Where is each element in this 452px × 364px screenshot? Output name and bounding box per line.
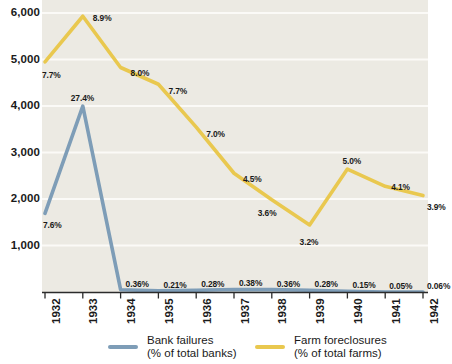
- data-point-label-bank-1941: 0.05%: [389, 282, 412, 290]
- chart-container: 6,000 5,000 4,000 3,000 2,000 1,000 1932…: [0, 0, 452, 364]
- data-point-label-farm-1933: 8.9%: [93, 14, 112, 22]
- data-point-label-bank-1939: 0.28%: [315, 280, 338, 288]
- legend-label-line2: (% of total banks): [147, 347, 236, 360]
- data-point-label-bank-1933: 27.4%: [71, 94, 94, 102]
- x-tick-label-1933: 1933: [88, 298, 100, 324]
- x-tick-label-1932: 1932: [51, 298, 63, 324]
- legend-label-line2: (% of total farms): [294, 347, 387, 360]
- data-point-label-farm-1940: 5.0%: [342, 157, 361, 165]
- data-point-label-bank-1934: 0.36%: [126, 280, 149, 288]
- data-point-label-bank-1937: 0.38%: [239, 279, 262, 287]
- legend-label-bank-failures: Bank failures (% of total banks): [147, 334, 236, 360]
- x-tick-label-1939: 1939: [315, 298, 327, 324]
- legend-label-line1: Bank failures: [147, 334, 236, 347]
- x-axis-labels: 1932193319341935193619371938193919401941…: [0, 0, 452, 364]
- legend-swatch-bank-failures: [108, 345, 138, 349]
- x-tick-label-1937: 1937: [240, 298, 252, 324]
- data-point-label-farm-1941: 4.1%: [391, 183, 410, 191]
- x-tick-label-1936: 1936: [202, 298, 214, 324]
- data-point-label-bank-1935: 0.21%: [163, 281, 186, 289]
- data-point-label-farm-1932: 7.7%: [42, 71, 61, 79]
- data-point-label-farm-1939: 3.2%: [300, 238, 319, 246]
- x-tick-label-1934: 1934: [126, 298, 138, 324]
- data-point-label-farm-1935: 7.7%: [168, 87, 187, 95]
- data-point-label-farm-1934: 8.0%: [131, 69, 150, 77]
- data-point-label-farm-1937: 4.5%: [243, 175, 262, 183]
- x-tick-label-1940: 1940: [353, 298, 365, 324]
- x-tick-label-1938: 1938: [277, 298, 289, 324]
- x-tick-label-1941: 1941: [391, 298, 403, 324]
- data-point-label-bank-1938: 0.36%: [277, 280, 300, 288]
- data-point-label-farm-1942: 3.9%: [427, 203, 446, 211]
- x-tick-label-1942: 1942: [429, 298, 441, 324]
- data-point-label-farm-1936: 7.0%: [206, 130, 225, 138]
- x-tick-label-1935: 1935: [164, 298, 176, 324]
- legend-item-farm-foreclosures: Farm foreclosures (% of total farms): [255, 334, 387, 360]
- data-point-label-bank-1942: 0.06%: [427, 282, 450, 290]
- data-point-label-farm-1938: 3.6%: [258, 209, 277, 217]
- data-point-label-bank-1936: 0.28%: [201, 280, 224, 288]
- chart-legend: Bank failures (% of total banks) Farm fo…: [0, 330, 452, 364]
- data-point-label-bank-1932: 7.6%: [43, 221, 62, 229]
- legend-item-bank-failures: Bank failures (% of total banks): [108, 334, 236, 360]
- legend-swatch-farm-foreclosures: [255, 345, 285, 349]
- legend-label-farm-foreclosures: Farm foreclosures (% of total farms): [294, 334, 387, 360]
- data-point-label-bank-1940: 0.15%: [352, 281, 375, 289]
- legend-label-line1: Farm foreclosures: [294, 334, 387, 347]
